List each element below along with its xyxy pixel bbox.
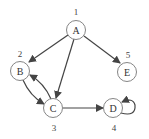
node-c: C 3 [44,99,63,134]
node-b: B 2 [11,49,30,81]
node-c-label: C [50,103,57,114]
node-a-index: 1 [74,7,79,17]
edge-a-c [56,39,74,98]
node-e-label: E [124,67,130,78]
node-e: E 5 [118,50,137,82]
edge-a-b [29,35,68,62]
edge-d-d [121,100,135,114]
node-d-index: 4 [112,123,117,133]
node-b-label: B [17,66,24,77]
node-c-index: 3 [52,123,57,133]
directed-graph: A 1 B 2 E 5 C 3 D 4 [0,0,149,139]
node-a: A 1 [67,7,86,40]
node-d-label: D [109,103,116,114]
edge-a-e [84,36,120,63]
node-b-index: 2 [18,49,23,59]
node-d: D 4 [104,99,123,134]
node-e-index: 5 [126,50,131,60]
node-a-label: A [72,25,80,36]
